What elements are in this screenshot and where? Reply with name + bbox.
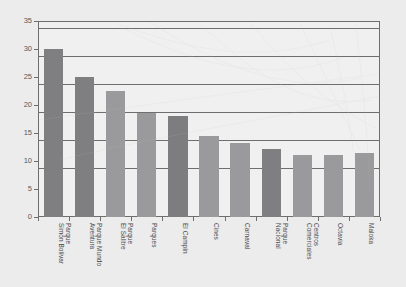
- x-axis-label: ParqueSimón Bolívar: [58, 223, 72, 264]
- y-tick-label: 10: [6, 157, 32, 165]
- x-axis-label: ParqueNacional: [275, 223, 289, 249]
- x-axis-label-line: Octavia: [337, 223, 344, 245]
- x-tick-mark: [131, 217, 132, 221]
- y-tick-label: 15: [6, 129, 32, 137]
- x-axis-label: CentrosComerciales: [306, 223, 320, 260]
- y-tick-label: 30: [6, 45, 32, 53]
- x-tick-mark: [193, 217, 194, 221]
- bar-chart: 05101520253035 ParqueSimón BolívarParque…: [0, 0, 406, 287]
- x-axis-label-line: Cines: [213, 223, 220, 240]
- bar: [44, 49, 63, 217]
- x-axis-label-line: El Campín: [182, 223, 189, 254]
- x-tick-mark: [318, 217, 319, 221]
- bars-group: [38, 21, 380, 217]
- x-axis-label: Parque MundoAventura: [89, 223, 103, 266]
- x-tick-mark: [287, 217, 288, 221]
- y-tick-label: 25: [6, 73, 32, 81]
- x-tick-mark: [349, 217, 350, 221]
- x-axis-label-line: Parques: [151, 223, 158, 248]
- x-tick-mark: [380, 217, 381, 221]
- bar: [75, 77, 94, 217]
- x-tick-mark: [162, 217, 163, 221]
- x-axis-label-line: Parque: [127, 223, 134, 250]
- bar: [199, 136, 218, 217]
- x-axis-label-line: Aventura: [89, 223, 96, 266]
- x-axis-label-line: Nacional: [275, 223, 282, 249]
- bar: [355, 153, 374, 217]
- x-tick-mark: [256, 217, 257, 221]
- y-tick-label: 5: [6, 185, 32, 193]
- x-axis-label-line: Maloka: [368, 223, 375, 244]
- x-axis-label-line: Parque: [282, 223, 289, 249]
- x-axis-label-line: Centros: [313, 223, 320, 260]
- y-tick-label: 35: [6, 17, 32, 25]
- x-tick-mark: [38, 217, 39, 221]
- bar: [168, 116, 187, 217]
- x-axis-label: Carnaval: [244, 223, 251, 249]
- bar: [293, 155, 312, 217]
- x-axis-label: Parques: [151, 223, 158, 248]
- x-tick-mark: [225, 217, 226, 221]
- x-axis-label: Octavia: [337, 223, 344, 245]
- x-axis-label-line: Carnaval: [244, 223, 251, 249]
- x-tick-mark: [69, 217, 70, 221]
- y-tick-label: 20: [6, 101, 32, 109]
- bar: [137, 113, 156, 217]
- x-axis-label-line: Simón Bolívar: [58, 223, 65, 264]
- x-axis-label: Maloka: [368, 223, 375, 244]
- x-axis-label-line: Parque Mundo: [96, 223, 103, 266]
- x-axis-label: ParqueEl Salitre: [120, 223, 134, 250]
- x-axis-label: El Campín: [182, 223, 189, 254]
- x-axis-label-line: El Salitre: [120, 223, 127, 250]
- x-axis-label-line: Comerciales: [306, 223, 313, 260]
- bar: [262, 149, 281, 217]
- bar: [230, 143, 249, 217]
- x-axis-label-line: Parque: [65, 223, 72, 264]
- bar: [106, 91, 125, 217]
- bar: [324, 155, 343, 217]
- x-axis-label: Cines: [213, 223, 220, 240]
- y-tick-label: 0: [6, 213, 32, 221]
- x-tick-mark: [100, 217, 101, 221]
